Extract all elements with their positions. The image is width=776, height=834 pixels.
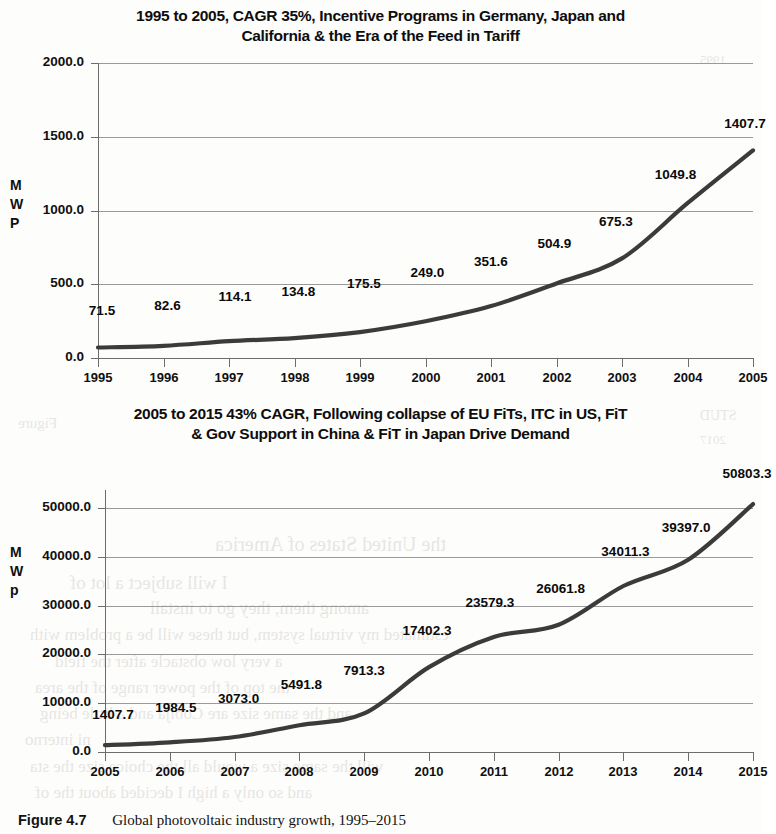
data-point-label: 26061.8 xyxy=(521,581,601,596)
data-point-label: 17402.3 xyxy=(387,623,467,638)
chart-bottom-title-line2: & Gov Support in China & FiT in Japan Dr… xyxy=(0,424,761,444)
data-point-label: 39397.0 xyxy=(646,520,726,535)
chart-top-title-line1: 1995 to 2005, CAGR 35%, Incentive Progra… xyxy=(136,7,625,24)
data-point-label: 50803.3 xyxy=(707,466,776,481)
data-point-label: 23579.3 xyxy=(450,595,530,610)
figure-caption-number: Figure 4.7 xyxy=(18,812,87,828)
chart-top-title-line2: California & the Era of the Feed in Tari… xyxy=(0,26,761,46)
data-point-label: 34011.3 xyxy=(585,544,665,559)
figure-caption: Figure 4.7 Global photovoltaic industry … xyxy=(18,812,406,829)
chart-bottom-title: 2005 to 2015 43% CAGR, Following collaps… xyxy=(0,404,761,444)
data-point-label: 3073.0 xyxy=(199,691,279,706)
chart-top-title: 1995 to 2005, CAGR 35%, Incentive Progra… xyxy=(0,6,761,46)
data-point-label: 7913.3 xyxy=(324,663,404,678)
data-point-label: 5491.8 xyxy=(261,677,341,692)
chart-bottom-title-line1: 2005 to 2015 43% CAGR, Following collaps… xyxy=(134,405,628,422)
figure-caption-text: Global photovoltaic industry growth, 199… xyxy=(112,812,406,828)
